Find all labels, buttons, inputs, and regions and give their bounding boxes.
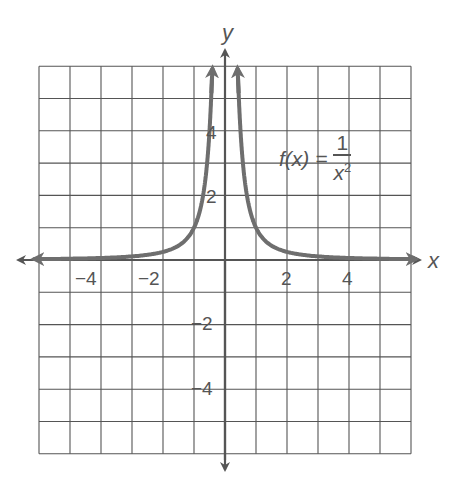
curve-arrow-up [238,68,239,93]
curve-branch [253,220,416,259]
function-lhs: f(x) = [279,147,327,171]
x-tick-label: −2 [138,268,160,290]
x-tick-label: 2 [281,268,292,290]
y-axis-label: y [222,20,233,46]
x-axis-label: x [428,248,439,274]
fraction: 1 x2 [333,132,351,185]
x-tick-label: −4 [75,268,97,290]
function-label: f(x) = 1 x2 [279,132,351,185]
x-tick-label: 4 [342,268,353,290]
fraction-denominator: x2 [333,156,351,185]
chart-plot-area [0,0,462,494]
fraction-numerator: 1 [333,132,351,156]
y-tick-label: −4 [191,378,213,400]
y-tick-label: −2 [191,313,213,335]
denominator-exponent: 2 [344,160,351,175]
y-tick-label: 4 [206,122,217,144]
y-tick-label: 2 [206,186,217,208]
curve-branch [34,220,197,259]
curve-arrow-up [211,68,212,93]
denominator-base: x [333,161,344,184]
